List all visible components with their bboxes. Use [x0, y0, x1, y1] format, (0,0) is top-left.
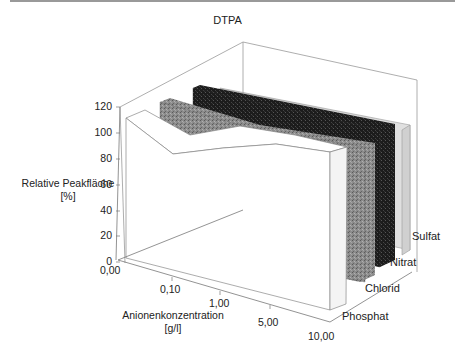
- y-axis-label-line2: [%]: [12, 190, 124, 203]
- y-tick-40: 40: [72, 204, 112, 216]
- z-tick-chlorid: Chlorid: [365, 282, 400, 294]
- x-axis-label: Anionenkonzentration [g/l]: [120, 309, 226, 335]
- x-axis-label-line1: Anionenkonzentration: [120, 309, 226, 322]
- z-tick-nitrat: Nitrat: [390, 256, 416, 268]
- series-phosphat: [126, 110, 347, 310]
- y-tick-120: 120: [72, 100, 112, 112]
- x-tick-5: 5,00: [258, 316, 278, 328]
- y-tick-80: 80: [72, 152, 112, 164]
- y-tick-100: 100: [72, 126, 112, 138]
- z-tick-phosphat: Phosphat: [342, 310, 388, 322]
- z-tick-sulfat: Sulfat: [412, 230, 440, 242]
- x-axis-label-line2: [g/l]: [120, 322, 226, 335]
- y-tick-60: 60: [72, 178, 112, 190]
- x-tick-0: 0,00: [100, 264, 120, 276]
- x-tick-10: 10,00: [308, 330, 334, 342]
- x-tick-1: 1,00: [209, 297, 229, 309]
- y-tick-20: 20: [72, 229, 112, 241]
- x-tick-0-10: 0,10: [160, 283, 180, 295]
